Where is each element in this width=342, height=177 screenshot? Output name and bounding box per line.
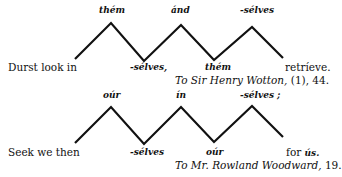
valley-word-1: -sélves bbox=[130, 148, 164, 157]
end-stressed: ús. bbox=[305, 148, 320, 158]
line-end-word: retríeve. bbox=[285, 62, 331, 73]
source-title: To Mr. Rowland Woodward, bbox=[175, 159, 322, 171]
source-citation: To Sir Henry Wotton, (1), 44. bbox=[175, 75, 329, 86]
peak-word-1: thém bbox=[99, 6, 125, 15]
line-end-word: for ús. bbox=[286, 147, 319, 158]
zigzag-line-1 bbox=[75, 23, 283, 61]
source-reference: 19. bbox=[325, 159, 342, 171]
source-citation: To Mr. Rowland Woodward, 19. bbox=[175, 160, 342, 171]
zigzag-line-2 bbox=[75, 106, 283, 144]
end-plain: for bbox=[286, 146, 305, 158]
peak-word-2: ín bbox=[176, 91, 186, 100]
peak-word-3: -sélves bbox=[240, 6, 274, 15]
peak-word-3: -sélves ; bbox=[240, 91, 280, 100]
valley-word-2: oúr bbox=[206, 148, 223, 157]
line-lead-text: Seek we then bbox=[8, 147, 80, 158]
peak-word-1: oúr bbox=[103, 91, 120, 100]
line-lead-text: Durst look in bbox=[8, 62, 77, 73]
source-title: To Sir Henry Wotton, bbox=[175, 74, 287, 86]
source-reference: (1), 44. bbox=[291, 74, 329, 86]
peak-word-2: ánd bbox=[171, 6, 190, 15]
valley-word-1: -sélves, bbox=[130, 63, 167, 72]
valley-word-2: thém bbox=[205, 63, 231, 72]
